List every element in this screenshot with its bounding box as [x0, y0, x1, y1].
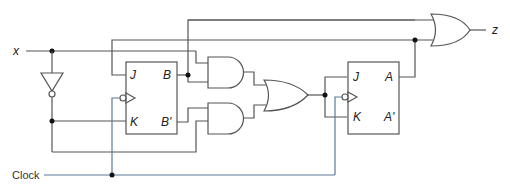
ffb-qbar-label: B'	[161, 115, 172, 129]
and-gate-upper	[208, 57, 266, 88]
ffb-k-label: K	[130, 115, 139, 129]
ffb-q-label: B	[163, 68, 171, 82]
clock-wire	[44, 97, 342, 175]
ffa-k-label: K	[353, 110, 362, 124]
bbar-output-wire	[177, 108, 208, 122]
inverter-gate	[41, 51, 208, 152]
flipflop-a: J K A A'	[342, 62, 399, 134]
flipflop-b: J K B B'	[120, 62, 177, 134]
ffb-j-label: J	[129, 68, 137, 82]
ffa-qbar-label: A'	[383, 110, 395, 124]
circuit-diagram: J K B B' J K A A'	[0, 0, 510, 191]
junction-clock	[110, 173, 115, 178]
junction-b	[186, 73, 191, 78]
a-output-wire	[399, 40, 433, 77]
or-gate-output	[397, 14, 486, 46]
and-gate-lower	[208, 103, 266, 134]
x-input-label: x	[12, 44, 20, 58]
clock-input-label: Clock	[12, 169, 40, 181]
junction-a	[413, 38, 418, 43]
junction-x-not	[50, 119, 55, 124]
z-output-label: z	[491, 23, 498, 37]
ffa-j-label: J	[352, 70, 360, 84]
ffa-q-label: A	[384, 70, 393, 84]
junction-or-out	[323, 93, 328, 98]
